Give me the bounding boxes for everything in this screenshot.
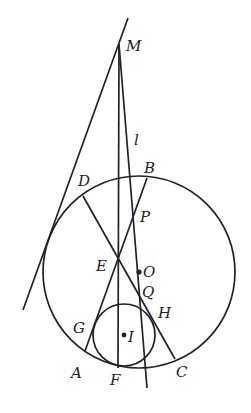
label-E: E [95,257,107,275]
label-P: P [139,208,151,226]
label-B: B [143,159,155,177]
label-I: I [127,328,135,346]
label-Q: Q [142,283,154,301]
label-M: M [125,37,142,55]
point-O-dot [136,269,141,274]
label-D: D [77,172,90,190]
label-H: H [157,304,172,322]
point-I-dot [122,333,127,338]
label-l: l [134,131,139,149]
label-F: F [109,371,121,389]
geometry-diagram: M l B D P E O Q H G I A F C [0,0,251,413]
tangent-line [23,18,128,310]
label-G: G [73,319,85,337]
label-C: C [176,363,188,381]
label-O: O [143,263,155,281]
label-A: A [69,364,82,382]
line-MF [118,44,119,368]
